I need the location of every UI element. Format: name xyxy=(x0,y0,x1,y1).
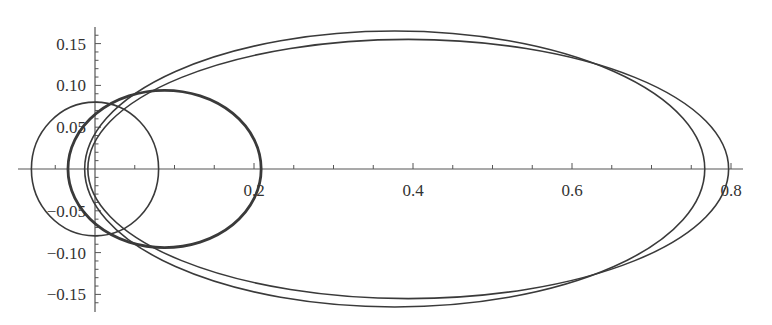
y-tick-label: 0.15 xyxy=(56,35,86,54)
y-tick-label: −0.05 xyxy=(47,202,86,221)
y-tick-label: 0.10 xyxy=(56,76,86,95)
x-tick-label: 0.6 xyxy=(561,181,582,200)
y-tick-label: −0.10 xyxy=(47,244,86,263)
x-tick-labels: 0.20.40.60.8 xyxy=(243,181,741,200)
y-tick-label: −0.15 xyxy=(47,285,86,304)
x-ticks xyxy=(55,163,731,169)
axes xyxy=(18,27,743,312)
x-tick-label: 0.4 xyxy=(402,181,424,200)
y-tick-label: 0.05 xyxy=(56,118,86,137)
x-tick-label: 0.2 xyxy=(243,181,264,200)
orbit-plot: 0.20.40.60.8 0.150.100.05−0.05−0.10−0.15 xyxy=(0,0,772,325)
x-tick-label: 0.8 xyxy=(720,181,741,200)
